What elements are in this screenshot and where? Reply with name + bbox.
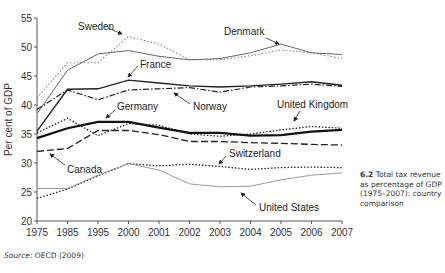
x-tick-label: 2004 — [239, 227, 262, 238]
label-germany: Germany — [117, 101, 158, 112]
label-canada: Canada — [67, 164, 102, 175]
y-tick-label: 50 — [21, 42, 33, 53]
label-norway: Norway — [193, 101, 227, 112]
x-tick-label: 2002 — [178, 227, 201, 238]
series-line-germany — [37, 122, 342, 138]
y-axis-label: Per cent of GDP — [3, 83, 14, 156]
y-tick-label: 25 — [21, 187, 33, 198]
caption-number: 6.2 — [360, 170, 373, 179]
y-tick-label: 35 — [21, 129, 33, 140]
label-uk: United Kingdom — [277, 99, 348, 110]
source-text: : OECD (2009) — [30, 251, 84, 260]
line-chart: 2025303540455055197519851995200020012002… — [0, 0, 445, 273]
caption-text: Total tax revenue as percentage of GDP (… — [360, 170, 442, 208]
y-tick-label: 40 — [21, 100, 33, 111]
x-tick-label: 2000 — [117, 227, 140, 238]
figure-caption: 6.2 Total tax revenue as percentage of G… — [360, 170, 445, 208]
y-tick-label: 20 — [21, 216, 33, 227]
label-switzerland: Switzerland — [229, 148, 281, 159]
label-us: United States — [259, 202, 319, 213]
y-tick-label: 55 — [21, 13, 33, 24]
label-france: France — [140, 59, 172, 70]
x-tick-label: 2007 — [331, 227, 354, 238]
source-label: Source — [4, 251, 30, 260]
y-tick-label: 30 — [21, 158, 33, 169]
x-tick-label: 1975 — [26, 227, 49, 238]
x-tick-label: 1985 — [56, 227, 79, 238]
label-denmark: Denmark — [224, 26, 266, 37]
x-tick-label: 2003 — [209, 227, 232, 238]
label-sweden: Sweden — [78, 21, 114, 32]
x-tick-label: 2005 — [270, 227, 293, 238]
x-tick-label: 1995 — [87, 227, 110, 238]
x-tick-label: 2001 — [148, 227, 171, 238]
x-tick-label: 2006 — [300, 227, 323, 238]
source-note: Source: OECD (2009) — [4, 251, 84, 260]
y-tick-label: 45 — [21, 71, 33, 82]
annotations: Sweden Denmark France Norway Germany Uni… — [50, 21, 348, 213]
